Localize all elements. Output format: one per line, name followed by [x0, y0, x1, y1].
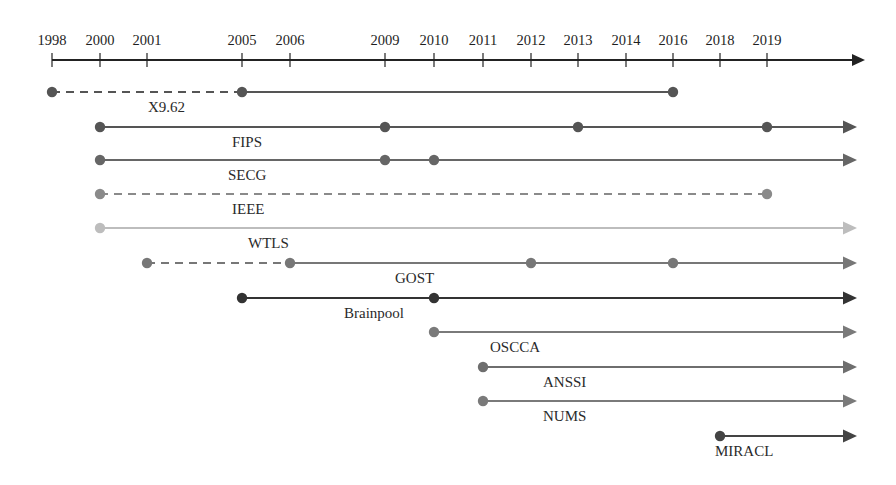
axis-year-label: 2018	[706, 33, 735, 48]
timeline-arrow-icon	[843, 395, 857, 408]
timeline-event-dot	[526, 258, 536, 268]
standard-label-secg: SECG	[228, 168, 266, 183]
timeline-event-dot	[47, 87, 57, 97]
standards-timeline: 1998200020012005200620092010201120122013…	[0, 0, 896, 485]
axis-year-label: 2016	[659, 33, 688, 48]
timeline-event-dot	[715, 431, 725, 441]
timeline-event-dot	[478, 362, 488, 372]
axis-year-label: 2010	[420, 33, 449, 48]
timeline-event-dot	[237, 293, 247, 303]
standard-label-fips: FIPS	[232, 135, 262, 150]
timeline-arrow-icon	[843, 154, 857, 167]
axis-year-label: 2000	[86, 33, 115, 48]
timeline-event-dot	[380, 122, 390, 132]
axis-year-label: 2019	[753, 33, 782, 48]
timeline-event-dot	[237, 87, 247, 97]
timeline-event-dot	[95, 122, 105, 132]
axis-year-label: 2005	[228, 33, 257, 48]
timeline-arrow-icon	[843, 121, 857, 134]
standard-label-miracl: MIRACL	[715, 444, 773, 459]
axis-year-label: 2009	[371, 33, 400, 48]
standard-label-wtls: WTLS	[248, 236, 289, 251]
timeline-arrow-icon	[843, 222, 857, 235]
axis-year-label: 2006	[276, 33, 305, 48]
axis-year-label: 2011	[469, 33, 497, 48]
axis-year-label: 2013	[564, 33, 593, 48]
timeline-event-dot	[668, 87, 678, 97]
standard-label-gost: GOST	[395, 271, 434, 286]
standard-label-x9-62: X9.62	[148, 100, 185, 115]
axis-arrow-icon	[852, 54, 865, 66]
timeline-event-dot	[285, 258, 295, 268]
timeline-event-dot	[429, 155, 439, 165]
axis-year-label: 2014	[612, 33, 641, 48]
standard-label-oscca: OSCCA	[490, 340, 540, 355]
timeline-arrow-icon	[843, 292, 857, 305]
axis-year-label: 1998	[38, 33, 67, 48]
timeline-event-dot	[573, 122, 583, 132]
timeline-arrow-icon	[843, 361, 857, 374]
standard-label-anssi: ANSSI	[543, 375, 586, 390]
timeline-canvas	[0, 0, 896, 485]
timeline-event-dot	[95, 223, 105, 233]
timeline-event-dot	[429, 327, 439, 337]
timeline-event-dot	[762, 122, 772, 132]
standard-label-nums: NUMS	[543, 409, 586, 424]
timeline-event-dot	[478, 396, 488, 406]
timeline-arrow-icon	[843, 326, 857, 339]
axis-year-label: 2012	[517, 33, 546, 48]
timeline-event-dot	[380, 155, 390, 165]
standard-label-ieee: IEEE	[232, 202, 264, 217]
timeline-event-dot	[429, 293, 439, 303]
timeline-event-dot	[762, 189, 772, 199]
timeline-arrow-icon	[843, 257, 857, 270]
timeline-arrow-icon	[843, 430, 857, 443]
timeline-event-dot	[668, 258, 678, 268]
timeline-event-dot	[95, 155, 105, 165]
axis-year-label: 2001	[133, 33, 162, 48]
timeline-event-dot	[142, 258, 152, 268]
timeline-event-dot	[95, 189, 105, 199]
standard-label-brainpool: Brainpool	[344, 306, 404, 321]
